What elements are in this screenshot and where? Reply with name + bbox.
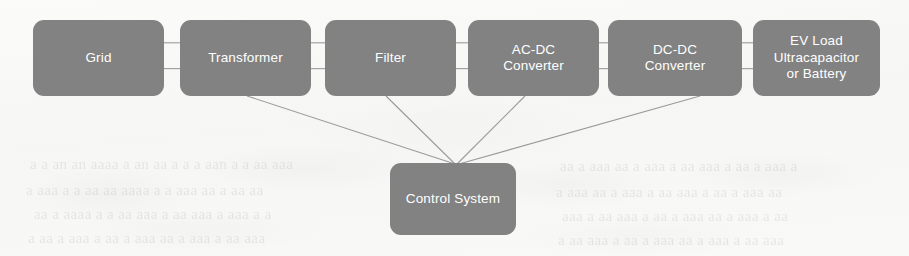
- ghost-text-line: a aa aaa a aa a aaa aa a aaa a aa aaa: [558, 232, 784, 249]
- ghost-text-line: a aaa a a aa aa aaaa a a aaa aa a aa aa: [26, 182, 263, 199]
- ghost-text-line: a a an an aaaa a an aa a a a aan a a aa …: [30, 156, 293, 173]
- node-label-grid: Grid: [79, 50, 117, 66]
- ghost-text-line: aa a aaa aa a aaa a aa aaa a aa a aaa a: [560, 158, 797, 175]
- node-label-control-system: Control System: [400, 191, 506, 207]
- node-grid[interactable]: Grid: [33, 20, 164, 96]
- ghost-text-line: aaa a aa aaa a aa a aaa aa a aaa a aa: [562, 208, 788, 225]
- node-label-transformer: Transformer: [202, 50, 289, 66]
- control-link-transformer: [247, 96, 455, 164]
- node-transformer[interactable]: Transformer: [180, 20, 311, 96]
- node-label-ev-load: EV Load Ultracapacitor or Battery: [768, 33, 865, 82]
- node-dc-dc[interactable]: DC-DC Converter: [608, 20, 742, 96]
- node-ac-dc[interactable]: AC-DC Converter: [468, 20, 599, 96]
- ghost-text-line: aa a aaaa a a aa aaa a aa aaa a aaa a a: [34, 206, 271, 223]
- node-label-filter: Filter: [369, 50, 412, 66]
- node-label-ac-dc: AC-DC Converter: [497, 42, 570, 75]
- node-ev-load[interactable]: EV Load Ultracapacitor or Battery: [753, 20, 880, 96]
- node-control-system[interactable]: Control System: [390, 163, 516, 235]
- control-link-dc-dc: [459, 96, 700, 164]
- ghost-text-line: a aa a aaa a aa a aaa aa a aaa a aa aaa: [28, 230, 265, 247]
- node-label-dc-dc: DC-DC Converter: [639, 42, 712, 75]
- control-link-filter: [386, 96, 455, 164]
- control-link-ac-dc: [457, 96, 525, 164]
- node-filter[interactable]: Filter: [325, 20, 456, 96]
- ghost-text-line: a aaa aa a aaa a aa aaa a aa a aaa aa: [556, 184, 782, 201]
- diagram-canvas: a a an an aaaa a an aa a a a aan a a aa …: [0, 0, 909, 256]
